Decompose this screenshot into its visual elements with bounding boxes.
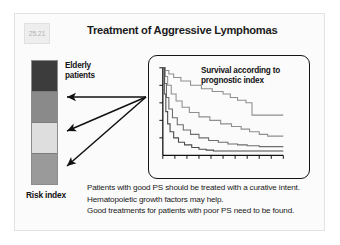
elderly-patients-label-line1: Elderly <box>65 61 95 71</box>
slide: 25.21 Treatment of Aggressive Lymphomas … <box>14 13 325 231</box>
page-title: Treatment of Aggressive Lymphomas <box>87 24 307 36</box>
risk-segment-low <box>32 154 57 184</box>
elderly-patients-label: Elderly patients <box>65 61 95 80</box>
survival-chart-panel: Survival according to prognostic index <box>148 55 310 179</box>
risk-segment-high-intermediate <box>32 92 57 123</box>
risk-segment-low-intermediate <box>32 123 57 154</box>
arrow-to-low-intermediate <box>67 97 146 131</box>
conclusion-text: Patients with good PS should be treated … <box>87 182 319 217</box>
risk-segment-high <box>32 61 57 92</box>
risk-index-label: Risk index <box>26 190 66 200</box>
arrow-to-low-risk <box>67 97 146 166</box>
conclusion-line-1: Patients with good PS should be treated … <box>87 182 319 194</box>
elderly-patients-label-line2: patients <box>65 71 95 81</box>
conclusion-line-2: Hematopoietic growth factors may help. <box>87 194 319 206</box>
survival-curve <box>163 68 283 115</box>
survival-chart <box>149 56 309 178</box>
chart-axes <box>159 68 283 159</box>
conclusion-line-3: Good treatments for patients with poor P… <box>87 205 319 217</box>
risk-index-bar <box>31 60 58 185</box>
chart-curves <box>163 68 283 151</box>
slide-number: 25.21 <box>24 23 50 44</box>
